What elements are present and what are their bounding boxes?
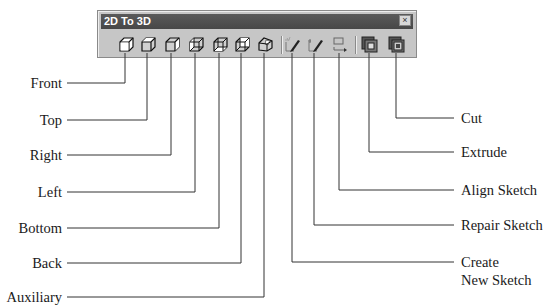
label-left: Left <box>38 184 62 200</box>
label-bottom: Bottom <box>18 220 62 236</box>
label-extrude: Extrude <box>461 144 507 160</box>
label-create-new-sketch-line2: New Sketch <box>461 272 531 288</box>
label-auxiliary: Auxiliary <box>6 289 62 305</box>
label-create-new-sketch-line1: Create <box>461 254 499 270</box>
label-front: Front <box>31 75 62 91</box>
label-repair-sketch: Repair Sketch <box>461 217 543 233</box>
label-align-sketch: Align Sketch <box>461 182 537 198</box>
label-top: Top <box>40 112 62 128</box>
label-back: Back <box>32 255 62 271</box>
label-cut: Cut <box>461 110 482 126</box>
label-right: Right <box>30 147 62 163</box>
